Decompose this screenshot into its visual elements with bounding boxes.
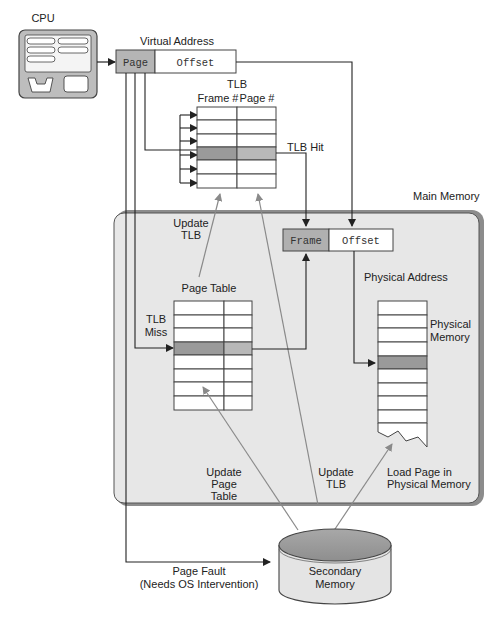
tlb-col-page: Page # <box>240 92 276 104</box>
main-memory-label: Main Memory <box>413 190 480 202</box>
secondary-memory-disk-icon: Secondary Memory <box>279 529 391 604</box>
tlb-miss-label-1: TLB <box>146 313 166 325</box>
secondary-memory-label-2: Memory <box>315 578 355 590</box>
virtual-address-label: Virtual Address <box>140 35 214 47</box>
pa-offset-field: Offset <box>342 235 380 247</box>
tlb-label: TLB <box>227 78 247 90</box>
page-table-hit-row <box>174 342 224 355</box>
tlb-parallel-search-arrows <box>180 115 197 183</box>
load-page-label-1: Load Page in <box>387 466 452 478</box>
tlb-col-frame: Frame # <box>198 92 240 104</box>
pa-frame-field: Frame <box>290 235 322 247</box>
va-page-field: Page <box>123 57 148 69</box>
va-offset-field: Offset <box>177 57 215 69</box>
paging-diagram: Main Memory CPU Virtual Address Page Off… <box>0 0 499 618</box>
tlb-hit-row <box>197 147 237 160</box>
page-to-tlb-line <box>145 73 197 150</box>
update-page-table-label-1: Update <box>206 466 241 478</box>
load-page-label-2: Physical Memory <box>387 478 471 490</box>
update-page-table-label-3: Table <box>211 490 237 502</box>
physical-memory-label-1: Physical <box>430 318 471 330</box>
update-page-table-label-2: Page <box>211 478 237 490</box>
page-fault-label-1: Page Fault <box>172 565 225 577</box>
update-tlb-top-label-2: TLB <box>181 229 201 241</box>
cpu-label: CPU <box>31 12 54 24</box>
tlb-miss-label-2: Miss <box>145 326 168 338</box>
update-tlb-bottom-label-2: TLB <box>326 478 346 490</box>
physical-memory-label-2: Memory <box>430 331 470 343</box>
physical-address-label: Physical Address <box>364 271 448 283</box>
cpu-icon: CPU <box>19 12 97 98</box>
update-tlb-top-label-1: Update <box>173 217 208 229</box>
page-table-label: Page Table <box>182 282 237 294</box>
update-tlb-bottom-label-1: Update <box>318 466 353 478</box>
tlb-hit-label: TLB Hit <box>287 141 324 153</box>
page-fault-label-2: (Needs OS Intervention) <box>140 578 259 590</box>
physical-memory-hit-frame <box>378 356 427 369</box>
secondary-memory-label-1: Secondary <box>309 565 362 577</box>
virtual-address: Virtual Address Page Offset <box>116 35 236 73</box>
tlb-table: TLB Frame # Page # <box>197 78 276 188</box>
